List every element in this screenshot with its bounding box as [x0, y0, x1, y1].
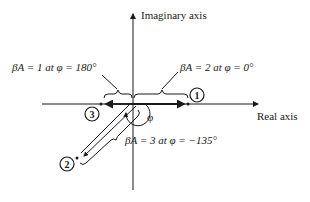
angle-label: φ — [147, 111, 153, 123]
brace-1 — [134, 72, 188, 98]
annotation-1-text: βA = 2 at φ = 0° — [179, 61, 254, 73]
point-2 — [76, 157, 79, 160]
phasor-diagram: Imaginary axis Real axis φ βA = 1 at φ =… — [0, 0, 310, 202]
point-3 — [100, 103, 103, 106]
vector-2 — [76, 103, 137, 160]
circle-label-3: 3 — [85, 107, 99, 121]
annotation-2-text: βA = 3 at φ = −135° — [124, 134, 217, 146]
svg-text:3: 3 — [90, 109, 95, 120]
annotation-3-text: βA = 1 at φ = 180° — [11, 61, 97, 73]
vector-1 — [133, 103, 190, 106]
svg-text:2: 2 — [65, 159, 70, 170]
circle-label-1: 1 — [190, 88, 204, 102]
svg-text:1: 1 — [195, 90, 200, 101]
brace-3 — [102, 75, 132, 98]
real-axis-label: Real axis — [257, 110, 298, 122]
imaginary-axis-label: Imaginary axis — [141, 9, 207, 21]
circle-label-2: 2 — [60, 157, 74, 171]
point-1 — [187, 103, 190, 106]
